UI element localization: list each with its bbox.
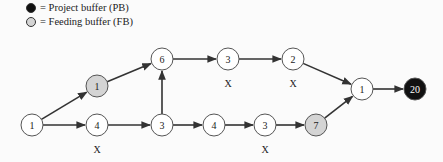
edge-arrow (107, 64, 151, 82)
node-duration-label: 20 (410, 84, 420, 95)
edge-arrow (325, 96, 353, 118)
critical-x-mark: X (261, 144, 269, 155)
critical-x-mark: X (289, 78, 297, 89)
node-duration-label: 4 (212, 120, 217, 131)
node-duration-label: 3 (160, 120, 165, 131)
task-node: 4 (86, 114, 108, 136)
task-node: 3 (217, 48, 239, 70)
task-node: 3 (151, 114, 173, 136)
task-node: 6 (151, 48, 173, 70)
node-duration-label: 1 (360, 84, 365, 95)
node-duration-label: 4 (95, 120, 100, 131)
node-duration-label: 7 (314, 120, 319, 131)
node-duration-label: 1 (95, 81, 100, 92)
task-node: 1 (21, 114, 43, 136)
critical-x-mark: X (224, 78, 232, 89)
node-duration-label: 3 (263, 120, 268, 131)
node-duration-label: 3 (226, 54, 231, 65)
edge-arrow (41, 92, 86, 119)
task-node: 1 (351, 78, 373, 100)
feeding-buffer-node: 7 (305, 114, 327, 136)
task-node: 4 (203, 114, 225, 136)
node-duration-label: 6 (160, 54, 165, 65)
network-diagram: 1146323437120 XXXX (0, 0, 443, 162)
project-buffer-node: 20 (404, 78, 426, 100)
edge-arrow (303, 63, 351, 84)
feeding-buffer-node: 1 (86, 75, 108, 97)
node-duration-label: 2 (291, 54, 296, 65)
task-node: 3 (254, 114, 276, 136)
node-duration-label: 1 (30, 120, 35, 131)
nodes: 1146323437120 (21, 48, 426, 136)
critical-x-mark: X (93, 144, 101, 155)
task-node: 2 (282, 48, 304, 70)
